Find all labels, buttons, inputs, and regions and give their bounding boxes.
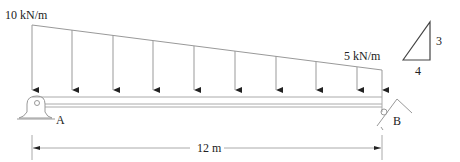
load-right-label: 5 kN/m <box>344 49 381 63</box>
load-top-line <box>32 25 382 70</box>
slope-vertical-label: 3 <box>436 34 442 48</box>
slope-triangle-icon <box>403 22 430 60</box>
beam-diagram: A B 10 kN/m 5 kN/m 12 m 3 4 <box>0 0 460 162</box>
support-a-label: A <box>56 113 65 127</box>
dimension-label: 12 m <box>197 141 222 155</box>
slope-horizontal-label: 4 <box>415 64 421 78</box>
beam <box>32 90 382 112</box>
load-arrows <box>32 25 382 90</box>
support-b-label: B <box>393 114 401 128</box>
load-left-label: 10 kN/m <box>5 8 48 22</box>
